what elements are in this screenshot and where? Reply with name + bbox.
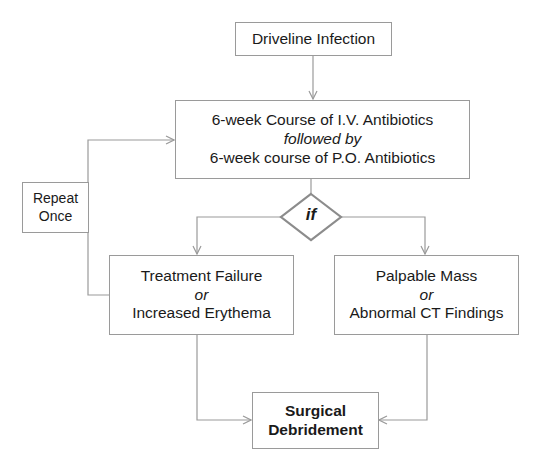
repeat-line1: Repeat <box>33 190 78 207</box>
right-branch-line1: Palpable Mass <box>376 267 478 286</box>
treatment-line2: 6-week course of P.O. Antibiotics <box>210 149 435 168</box>
left-branch-node: Treatment Failure or Increased Erythema <box>109 255 294 335</box>
decision-label: if <box>291 205 331 225</box>
start-label: Driveline Infection <box>252 30 375 49</box>
left-branch-line1: Treatment Failure <box>141 267 263 286</box>
left-branch-line2: Increased Erythema <box>132 304 271 323</box>
left-branch-connector: or <box>195 286 209 305</box>
end-line1: Surgical <box>285 402 346 421</box>
right-branch-node: Palpable Mass or Abnormal CT Findings <box>334 255 519 335</box>
right-branch-line2: Abnormal CT Findings <box>350 304 504 323</box>
repeat-once-node: Repeat Once <box>22 182 89 233</box>
repeat-line2: Once <box>39 208 72 225</box>
end-node-surgical-debridement: Surgical Debridement <box>252 392 379 449</box>
start-node-driveline-infection: Driveline Infection <box>235 22 392 56</box>
end-line2: Debridement <box>268 421 363 440</box>
treatment-node: 6-week Course of I.V. Antibiotics follow… <box>175 100 470 179</box>
treatment-connector: followed by <box>284 130 362 149</box>
treatment-line1: 6-week Course of I.V. Antibiotics <box>212 111 434 130</box>
right-branch-connector: or <box>420 286 434 305</box>
